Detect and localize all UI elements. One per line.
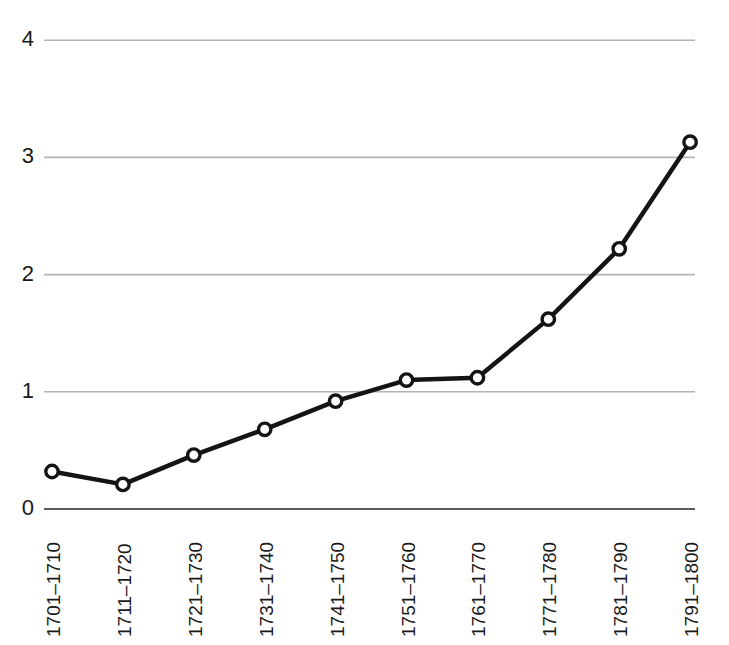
data-point-1751–1760 (400, 374, 412, 386)
x-tick-label-1781–1790: 1781–1790 (610, 542, 632, 637)
y-tick-label-4: 4 (4, 28, 34, 50)
data-point-1781–1790 (613, 243, 625, 255)
data-point-1791–1800 (684, 136, 696, 148)
x-tick-label-1791–1800: 1791–1800 (681, 542, 703, 637)
data-point-1761–1770 (471, 372, 483, 384)
data-point-1741–1750 (329, 395, 341, 407)
data-point-1771–1780 (542, 313, 554, 325)
y-tick-label-0: 0 (4, 497, 34, 519)
x-tick-label-1751–1760: 1751–1760 (398, 542, 420, 637)
y-tick-label-3: 3 (4, 145, 34, 167)
data-series-line (52, 142, 690, 484)
data-point-1711–1720 (117, 478, 129, 490)
data-point-1721–1730 (188, 449, 200, 461)
x-tick-label-1721–1730: 1721–1730 (185, 542, 207, 637)
line-chart: 01234 1701–17101711–17201721–17301731–17… (0, 0, 729, 645)
data-point-1701–1710 (46, 465, 58, 477)
x-tick-label-1731–1740: 1731–1740 (256, 542, 278, 637)
y-tick-label-2: 2 (4, 263, 34, 285)
x-tick-label-1771–1780: 1771–1780 (539, 542, 561, 637)
gridlines (44, 40, 695, 392)
x-tick-label-1761–1770: 1761–1770 (468, 542, 490, 637)
data-point-1731–1740 (259, 423, 271, 435)
data-point-markers (46, 136, 697, 491)
x-tick-label-1711–1720: 1711–1720 (114, 543, 136, 637)
y-tick-label-1: 1 (4, 380, 34, 402)
x-tick-label-1741–1750: 1741–1750 (327, 542, 349, 637)
x-tick-label-1701–1710: 1701–1710 (43, 542, 65, 637)
